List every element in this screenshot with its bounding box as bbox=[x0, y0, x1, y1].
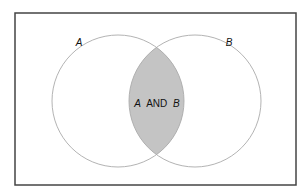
intersection-label-a: A bbox=[133, 98, 141, 109]
set-a-label: A bbox=[75, 37, 83, 48]
intersection-label-b: B bbox=[173, 98, 180, 109]
intersection-label-and: AND bbox=[146, 98, 167, 109]
set-b-label: B bbox=[226, 37, 233, 48]
venn-diagram: A B A AND B bbox=[0, 0, 308, 193]
intersection-label: A AND B bbox=[133, 98, 180, 109]
